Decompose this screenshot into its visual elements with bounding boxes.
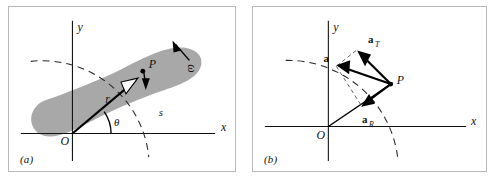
arc-length-label: s bbox=[159, 106, 163, 118]
panel-a-drawing: y x O P r s θ ω bbox=[9, 7, 235, 171]
radial-acceleration-subscript: R bbox=[368, 120, 374, 129]
panel-a: y x O P r s θ ω (a) bbox=[8, 6, 236, 172]
tangential-acceleration-label: a bbox=[368, 33, 374, 45]
panel-b-caption: (b) bbox=[264, 153, 277, 165]
panel-b-drawing: y x O P a T a a R bbox=[253, 7, 486, 171]
origin-label: O bbox=[61, 134, 70, 148]
angular-velocity-label: ω bbox=[185, 64, 199, 72]
radial-acceleration-label: a bbox=[362, 113, 368, 125]
x-axis-label: x bbox=[220, 121, 227, 135]
origin-label: O bbox=[316, 128, 325, 142]
y-axis-label: y bbox=[332, 20, 339, 34]
point-p-label: P bbox=[396, 73, 404, 87]
y-axis-label: y bbox=[76, 20, 83, 34]
panel-a-caption: (a) bbox=[20, 153, 33, 165]
point-p-marker bbox=[388, 82, 393, 87]
panel-b: y x O P a T a a R (b) bbox=[252, 6, 487, 172]
resultant-acceleration-label: a bbox=[323, 52, 329, 64]
radius-vector-label: r bbox=[105, 92, 110, 106]
point-p-marker bbox=[140, 69, 145, 74]
angular-velocity-arrowhead bbox=[173, 41, 182, 53]
tangential-acceleration-arrowhead bbox=[357, 50, 371, 66]
x-axis-label: x bbox=[470, 114, 477, 128]
tangential-acceleration-subscript: T bbox=[375, 40, 380, 49]
angle-arc bbox=[104, 112, 111, 134]
figure-root: y x O P r s θ ω (a) bbox=[0, 0, 495, 180]
angle-theta-label: θ bbox=[114, 116, 120, 128]
point-p-label: P bbox=[148, 57, 156, 71]
